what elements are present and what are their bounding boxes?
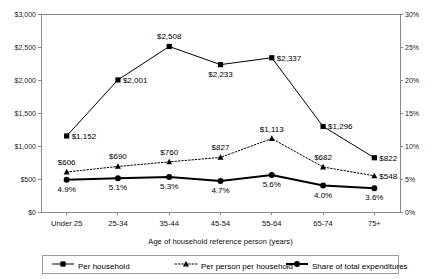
left-axis-tick-label: $2,500 bbox=[15, 44, 37, 51]
data-point-label: 5.1% bbox=[109, 183, 127, 192]
data-point-label: $2,233 bbox=[208, 70, 233, 79]
data-point-label: $2,337 bbox=[277, 54, 302, 63]
marker-square bbox=[167, 44, 172, 49]
marker-circle bbox=[115, 175, 121, 181]
right-axis-tick-label: 5% bbox=[405, 176, 415, 183]
data-point-label: $1,296 bbox=[328, 122, 353, 131]
data-point-label: 4.7% bbox=[211, 186, 229, 195]
series-circle: 4.9%5.1%5.3%4.7%5.6%4.0%3.6% bbox=[58, 172, 384, 202]
marker-square bbox=[60, 261, 65, 266]
right-axis-tick-label: 30% bbox=[405, 11, 419, 18]
marker-circle bbox=[371, 185, 377, 191]
data-point-label: $2,508 bbox=[157, 32, 182, 41]
x-axis-title: Age of household reference person (years… bbox=[148, 237, 293, 246]
right-axis-tick-label: 15% bbox=[405, 110, 419, 117]
category-label: 65-74 bbox=[313, 219, 332, 228]
right-axis-tick-label: 0% bbox=[405, 209, 415, 216]
category-label: 25-34 bbox=[108, 219, 127, 228]
line-chart: $0$500$1,000$1,500$2,000$2,500$3,0000%5%… bbox=[0, 0, 438, 279]
marker-triangle bbox=[115, 163, 121, 169]
marker-circle bbox=[320, 183, 326, 189]
chart-title-sliver bbox=[0, 0, 438, 7]
marker-square bbox=[269, 55, 274, 60]
left-axis-tick-label: $1,000 bbox=[15, 143, 37, 150]
data-point-label: $606 bbox=[58, 158, 76, 167]
data-point-label: 4.0% bbox=[314, 191, 332, 200]
marker-square bbox=[115, 77, 120, 82]
chart-legend: Per householdPer person per householdSha… bbox=[42, 255, 408, 273]
data-point-label: $2,001 bbox=[123, 76, 148, 85]
right-axis-tick-label: 10% bbox=[405, 143, 419, 150]
left-axis-tick-label: $1,500 bbox=[15, 110, 37, 117]
data-point-label: 3.6% bbox=[365, 193, 383, 202]
series-square: $1,152$2,001$2,508$2,233$2,337$1,296$822 bbox=[64, 32, 398, 162]
data-point-label: $548 bbox=[379, 172, 397, 181]
data-point-label: 5.6% bbox=[263, 180, 281, 189]
marker-circle bbox=[294, 261, 300, 267]
category-label: 35-44 bbox=[159, 219, 178, 228]
data-point-label: $760 bbox=[160, 148, 178, 157]
data-point-label: 4.9% bbox=[58, 185, 76, 194]
data-point-label: $690 bbox=[109, 152, 127, 161]
marker-square bbox=[218, 62, 223, 67]
legend-label: Per household bbox=[78, 262, 130, 271]
data-point-label: $682 bbox=[314, 153, 332, 162]
marker-circle bbox=[269, 172, 275, 178]
data-point-label: $1,113 bbox=[260, 125, 284, 134]
left-axis-tick-label: $2,000 bbox=[15, 77, 37, 84]
left-axis-tick-label: $0 bbox=[28, 209, 36, 216]
marker-circle bbox=[166, 174, 172, 180]
left-axis-tick-label: $500 bbox=[20, 176, 36, 183]
data-point-label: $822 bbox=[379, 154, 397, 163]
category-label: 45-54 bbox=[211, 219, 230, 228]
marker-circle bbox=[64, 177, 70, 183]
category-label: 55-64 bbox=[262, 219, 281, 228]
category-label: 75+ bbox=[368, 219, 381, 228]
data-point-label: 5.3% bbox=[160, 182, 178, 191]
data-point-label: $827 bbox=[212, 143, 230, 152]
marker-square bbox=[320, 124, 325, 129]
left-axis-tick-label: $3,000 bbox=[15, 11, 37, 18]
chart-container: $0$500$1,000$1,500$2,000$2,500$3,0000%5%… bbox=[0, 0, 438, 279]
right-axis-tick-label: 20% bbox=[405, 77, 419, 84]
marker-triangle bbox=[320, 164, 326, 170]
marker-square bbox=[372, 155, 377, 160]
marker-square bbox=[64, 133, 69, 138]
marker-triangle bbox=[269, 135, 275, 141]
legend-label: Share of total expenditures bbox=[312, 262, 408, 271]
data-point-label: $1,152 bbox=[72, 132, 97, 141]
marker-triangle bbox=[64, 169, 70, 175]
legend-label: Per person per household bbox=[201, 262, 293, 271]
series-triangle: $606$690$760$827$1,113$682$548 bbox=[58, 125, 398, 181]
right-axis-tick-label: 25% bbox=[405, 44, 419, 51]
category-label: Under 25 bbox=[51, 219, 82, 228]
marker-circle bbox=[218, 178, 224, 184]
